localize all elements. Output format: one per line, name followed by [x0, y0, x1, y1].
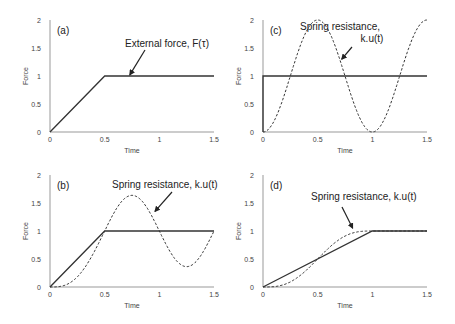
y-tick-label: 1.5 [244, 200, 254, 207]
x-tick-label: 1.5 [422, 136, 432, 143]
y-tick-label: 1.5 [31, 45, 41, 52]
y-tick-label: 1 [250, 228, 254, 235]
x-tick-label: 0 [261, 136, 265, 143]
x-tick-label: 1.5 [209, 291, 219, 298]
panel-label: (c) [270, 25, 282, 36]
y-tick-label: 1 [37, 228, 41, 235]
annotation-arrow [342, 47, 352, 59]
x-tick-label: 0 [261, 291, 265, 298]
panel-a: 00.511.5200.511.5TimeForce(a)External fo… [22, 17, 219, 155]
panel-label: (d) [270, 180, 282, 191]
y-tick-label: 0 [250, 284, 254, 291]
y-tick-label: 0.5 [244, 101, 254, 108]
y-axis-label: Force [235, 222, 242, 240]
x-tick-label: 1 [370, 291, 374, 298]
y-tick-label: 0.5 [31, 101, 41, 108]
annotation-arrow [155, 192, 172, 211]
y-tick-label: 1 [250, 73, 254, 80]
x-tick-label: 0.5 [100, 291, 110, 298]
annotation-text: Spring resistance, [300, 21, 380, 32]
y-tick-label: 1.5 [244, 45, 254, 52]
x-tick-label: 0 [48, 291, 52, 298]
x-tick-label: 0 [48, 136, 52, 143]
spring-resistance-curve [263, 231, 427, 287]
external-force-line [263, 231, 427, 287]
x-tick-label: 1.5 [422, 291, 432, 298]
y-axis-label: Force [22, 222, 29, 240]
annotation-text: Spring resistance, k.u(t) [311, 191, 417, 202]
y-tick-label: 0.5 [31, 256, 41, 263]
panel-label: (a) [57, 25, 69, 36]
x-tick-label: 0.5 [313, 136, 323, 143]
external-force-line [263, 76, 427, 132]
annotation-text: Spring resistance, k.u(t) [112, 179, 218, 190]
y-tick-label: 2 [37, 172, 41, 179]
y-tick-label: 2 [250, 172, 254, 179]
y-tick-label: 0 [37, 129, 41, 136]
x-tick-label: 1 [157, 291, 161, 298]
panel-label: (b) [57, 180, 69, 191]
y-tick-label: 2 [250, 17, 254, 24]
x-axis-label: Time [337, 302, 352, 309]
external-force-line [50, 76, 214, 132]
panel-d: 00.511.5200.511.5TimeForce(d)Spring resi… [235, 172, 432, 310]
x-tick-label: 0.5 [313, 291, 323, 298]
x-tick-label: 0.5 [100, 136, 110, 143]
annotation-text: External force, F(τ) [125, 38, 209, 49]
y-tick-label: 2 [37, 17, 41, 24]
y-tick-label: 0 [37, 284, 41, 291]
y-tick-label: 1 [37, 73, 41, 80]
x-axis-label: Time [124, 147, 139, 154]
figure: 00.511.5200.511.5TimeForce(a)External fo… [0, 0, 455, 324]
panel-b: 00.511.5200.511.5TimeForce(b)Spring resi… [22, 172, 219, 310]
y-axis-label: Force [22, 67, 29, 85]
external-force-line [50, 231, 214, 287]
y-axis-label: Force [235, 67, 242, 85]
x-axis-label: Time [124, 302, 139, 309]
annotation-text: k.u(t) [361, 33, 384, 44]
annotation-arrow [130, 50, 145, 75]
annotation-arrow [342, 207, 353, 228]
y-tick-label: 0 [250, 129, 254, 136]
x-tick-label: 1.5 [209, 136, 219, 143]
y-tick-label: 0.5 [244, 256, 254, 263]
x-axis-label: Time [337, 147, 352, 154]
panel-c: 00.511.5200.511.5TimeForce(c)Spring resi… [235, 17, 432, 155]
y-tick-label: 1.5 [31, 200, 41, 207]
x-tick-label: 1 [157, 136, 161, 143]
x-tick-label: 1 [370, 136, 374, 143]
spring-resistance-curve [50, 195, 214, 287]
